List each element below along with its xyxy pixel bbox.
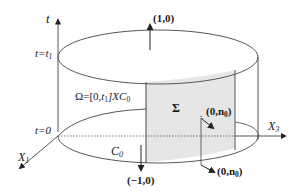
domain-label: Ω=[0,t1]XC0 <box>75 91 130 103</box>
domain-mid: ]X <box>108 90 119 102</box>
inner-open: (0, <box>206 105 218 117</box>
surface-label: Σ <box>172 102 180 114</box>
x1-subscript: 1 <box>25 156 29 165</box>
inner-close: ) <box>228 105 232 117</box>
bottom-inner-arc <box>58 109 146 136</box>
lateral-inner-normal-label: (0,n0) <box>206 106 231 118</box>
top-normal-label: (1,0) <box>153 13 174 24</box>
bottom-normal-label: (−1,0) <box>127 175 154 186</box>
time-top-sub: 1 <box>49 52 53 61</box>
diagram-canvas: t X1 X3 t=t1 t=0 Ω=[0,t1]XC0 Σ C0 (1,0) … <box>0 0 297 193</box>
outer-open: (0, <box>217 165 229 177</box>
right-small-arc <box>235 122 259 140</box>
curve-c-sub: 0 <box>119 150 123 159</box>
lateral-outer-normal-arrow <box>201 165 214 172</box>
domain-c-sub: 0 <box>126 95 130 104</box>
top-ellipse <box>58 30 258 84</box>
time-level-bottom: t=0 <box>35 125 51 136</box>
curve-label: C0 <box>111 145 123 159</box>
x3-subscript: 3 <box>275 125 279 134</box>
lateral-outer-normal-label: (0,n0) <box>217 166 242 178</box>
time-level-top: t=t1 <box>35 48 52 60</box>
time-top-text: t=t <box>35 47 49 59</box>
x1-axis-label: X1 <box>18 151 29 165</box>
domain-prefix: Ω=[0, <box>75 90 101 102</box>
x3-axis-label: X3 <box>268 120 279 134</box>
t-axis-label: t <box>46 12 50 25</box>
curve-c: C <box>111 144 119 158</box>
outer-close: ) <box>239 165 243 177</box>
cylinder-drawing <box>0 0 297 193</box>
